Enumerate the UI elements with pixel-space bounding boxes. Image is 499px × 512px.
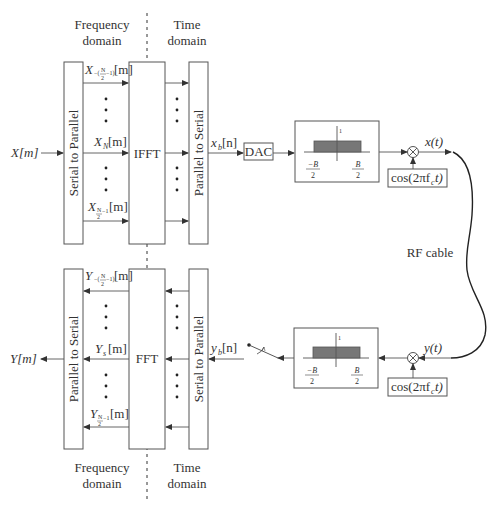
- bottom-frequency-label-2: domain: [83, 476, 122, 491]
- rx-carrier-label: cos(2πf c t): [391, 379, 443, 396]
- rx-parallel-to-serial-label: Parallel to Serial: [66, 315, 81, 402]
- svg-text:2: 2: [97, 214, 100, 220]
- tx-input-label: X[m]: [10, 145, 38, 160]
- svg-text:[m]: [m]: [110, 406, 129, 421]
- svg-text:2: 2: [101, 281, 104, 287]
- svg-text:[n]: [n]: [222, 340, 237, 355]
- top-time-label-1: Time: [174, 17, 201, 32]
- svg-text:y: y: [209, 340, 217, 355]
- svg-text:[m]: [m]: [114, 268, 133, 283]
- svg-text:X: X: [93, 134, 103, 149]
- svg-text:B: B: [355, 366, 360, 375]
- fft-label: FFT: [136, 351, 158, 366]
- svg-text:2: 2: [356, 171, 360, 180]
- tx-output-label: x(t): [424, 134, 443, 149]
- dac-label: DAC: [245, 144, 272, 159]
- svg-text:t): t): [435, 170, 443, 185]
- svg-text:[n]: [n]: [222, 135, 237, 150]
- ofdm-diagram: Frequency domain Time domain X[m] Serial…: [0, 0, 499, 512]
- tx-parallel-to-serial-label: Parallel to Serial: [191, 109, 206, 196]
- svg-text:[m]: [m]: [108, 341, 127, 356]
- svg-text:t): t): [435, 379, 443, 394]
- top-frequency-label-2: domain: [83, 33, 122, 48]
- rx-serial-to-parallel-label: Serial to Parallel: [191, 315, 206, 402]
- bottom-frequency-label-1: Frequency: [75, 460, 130, 475]
- rf-cable-label: RF cable: [407, 245, 454, 260]
- bottom-time-label-2: domain: [168, 476, 207, 491]
- tx-carrier-label: cos(2πf c t): [391, 170, 443, 187]
- svg-text:X: X: [84, 62, 94, 77]
- svg-text:−1: −1: [102, 208, 108, 214]
- top-domain-labels: Frequency domain Time domain: [75, 17, 207, 48]
- rx-lowpass-filter: 1 −B 2 B 2: [294, 328, 378, 388]
- top-frequency-label-1: Frequency: [75, 17, 130, 32]
- rx-mixer-icon: [408, 353, 419, 364]
- svg-text:x: x: [210, 135, 217, 150]
- top-time-label-2: domain: [168, 33, 207, 48]
- sampler-switch-icon: [247, 343, 278, 358]
- svg-text:2: 2: [98, 421, 101, 427]
- svg-text:2: 2: [355, 377, 359, 386]
- ifft-label: IFFT: [134, 146, 161, 161]
- bottom-domain-labels: Frequency domain Time domain: [75, 460, 207, 491]
- tx-baseband-label: x b [n]: [210, 135, 237, 152]
- tx-label-bottom: X N 2 −1 [m]: [87, 199, 128, 220]
- svg-text:[m]: [m]: [109, 199, 128, 214]
- rx-label-bottom: Y N 2 −1 [m]: [90, 406, 129, 427]
- svg-text:s: s: [103, 349, 106, 358]
- svg-text:B: B: [356, 160, 361, 169]
- rx-input-label: y(t): [422, 340, 442, 355]
- rx-ellipsis-right: [176, 305, 179, 399]
- tx-lowpass-filter: 1 −B 2 B 2: [295, 121, 379, 182]
- svg-text:−1: −1: [103, 415, 109, 421]
- svg-text:−B: −B: [308, 160, 318, 169]
- svg-text:[m]: [m]: [114, 62, 133, 77]
- tx-ellipsis-right: [176, 98, 179, 192]
- svg-text:1: 1: [339, 128, 342, 134]
- tx-label-middle: X N [m]: [93, 134, 127, 151]
- svg-text:X: X: [87, 199, 97, 214]
- tx-mixer-icon: [408, 147, 419, 158]
- svg-text:−B: −B: [307, 366, 317, 375]
- rx-output-label: Y[m]: [10, 351, 37, 366]
- svg-text:cos(2πf: cos(2πf: [391, 170, 431, 185]
- svg-text:1: 1: [338, 335, 341, 341]
- bottom-time-label-1: Time: [174, 460, 201, 475]
- tx-serial-to-parallel-label: Serial to Parallel: [66, 109, 81, 196]
- rx-label-top: Y −( N 2 −1) [m]: [85, 268, 133, 287]
- svg-text:[m]: [m]: [108, 134, 127, 149]
- svg-text:Y: Y: [85, 268, 94, 283]
- rx-label-middle: Y s [m]: [95, 341, 127, 358]
- rx-baseband-label: y b [n]: [209, 340, 237, 357]
- svg-text:cos(2πf: cos(2πf: [391, 379, 431, 394]
- rf-cable: [451, 152, 486, 358]
- svg-text:2: 2: [310, 377, 314, 386]
- svg-text:−(: −(: [94, 70, 99, 77]
- svg-text:2: 2: [101, 75, 104, 81]
- svg-text:−(: −(: [94, 276, 99, 283]
- tx-label-top: X −( N 2 −1) [m]: [84, 62, 133, 81]
- svg-text:2: 2: [311, 171, 315, 180]
